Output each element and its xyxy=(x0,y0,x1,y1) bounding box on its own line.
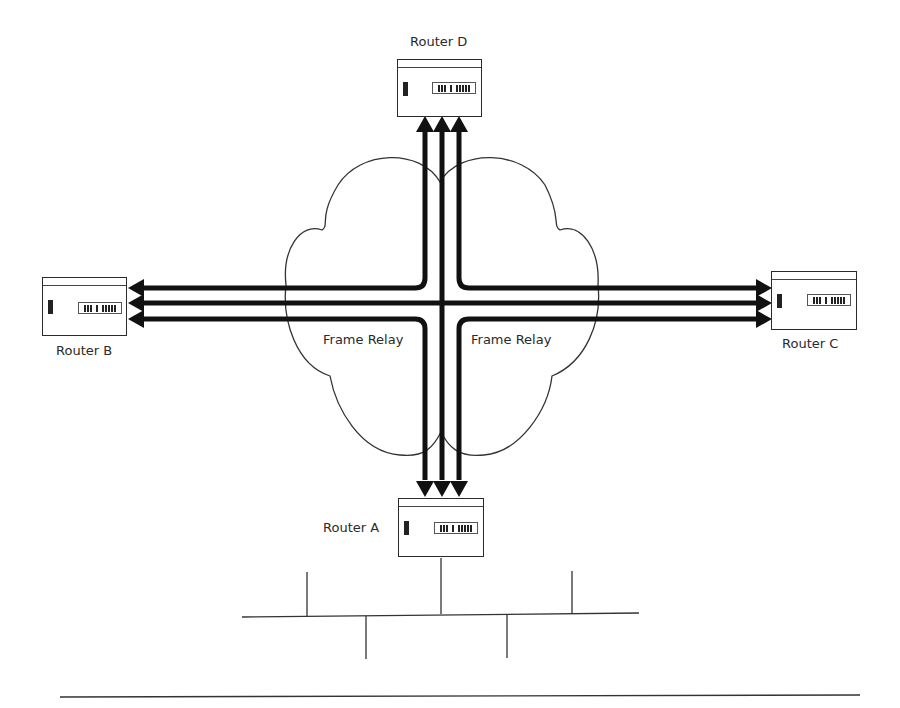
router-top-line xyxy=(399,506,483,507)
power-led-icon xyxy=(777,294,782,308)
router-d[interactable] xyxy=(397,59,482,117)
port-panel-icon xyxy=(807,294,851,306)
arrowheads-router-c xyxy=(756,279,772,328)
router-top-line xyxy=(398,67,481,68)
router-b-label: Router B xyxy=(56,343,112,358)
arrowheads-router-d xyxy=(416,116,468,132)
port-panel-icon xyxy=(432,82,476,94)
lan-segment xyxy=(242,558,639,659)
router-a-label: Router A xyxy=(323,520,379,535)
cloud-label-right: Frame Relay xyxy=(471,332,551,347)
arrowheads-router-a xyxy=(416,481,468,497)
router-b[interactable] xyxy=(42,277,127,336)
arrowheads-router-b xyxy=(128,279,144,328)
power-led-icon xyxy=(404,521,409,535)
port-panel-icon xyxy=(434,522,478,534)
router-a[interactable] xyxy=(398,498,484,557)
power-led-icon xyxy=(403,82,408,96)
bottom-rule xyxy=(60,695,860,697)
router-d-label: Router D xyxy=(410,34,467,49)
port-panel-icon xyxy=(78,302,122,314)
cloud-label-left: Frame Relay xyxy=(323,332,403,347)
router-top-line xyxy=(43,285,126,286)
router-top-line xyxy=(772,279,856,280)
router-c-label: Router C xyxy=(782,336,838,351)
router-c[interactable] xyxy=(771,271,857,330)
power-led-icon xyxy=(48,300,53,314)
